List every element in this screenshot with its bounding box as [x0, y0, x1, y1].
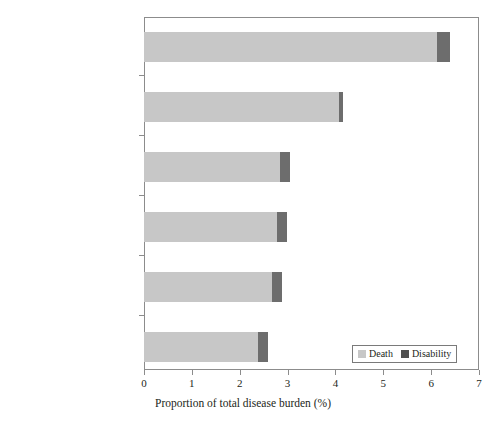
bar-segment-disability [258, 332, 268, 362]
x-axis-tick [144, 370, 145, 375]
bar-segment-death [144, 32, 437, 62]
x-axis-tick-label: 3 [276, 377, 300, 389]
legend: Death Disability [352, 345, 457, 363]
legend-swatch-disability-icon [401, 350, 409, 358]
bar-segment-disability [277, 212, 287, 242]
y-axis-tick [139, 195, 144, 196]
x-axis-tick-label: 4 [323, 377, 347, 389]
legend-label-death: Death [369, 348, 393, 359]
legend-label-disability: Disability [412, 348, 451, 359]
bar-segment-death [144, 152, 280, 182]
x-axis-tick-label: 1 [180, 377, 204, 389]
bar-segment-death [144, 272, 272, 302]
bar-segment-disability [437, 32, 450, 62]
y-axis-tick [139, 315, 144, 316]
bar-segment-disability [339, 92, 343, 122]
x-axis-tick-label: 2 [228, 377, 252, 389]
legend-item-disability: Disability [401, 348, 451, 359]
bar-segment-disability [280, 152, 290, 182]
bar-segment-death [144, 92, 339, 122]
x-axis-tick-label: 7 [467, 377, 486, 389]
bar-segment-disability [272, 272, 282, 302]
x-axis-tick [383, 370, 384, 375]
y-axis-tick [139, 75, 144, 76]
x-axis-tick-label: 5 [371, 377, 395, 389]
x-axis-tick [479, 370, 480, 375]
disease-burden-bar-chart: Ischaemic heart disease Lower respirator… [0, 0, 486, 431]
x-axis-tick-label: 6 [419, 377, 443, 389]
x-axis-tick [335, 370, 336, 375]
x-axis-tick-label: 0 [132, 377, 156, 389]
legend-item-death: Death [358, 348, 393, 359]
x-axis-tick [240, 370, 241, 375]
plot-area [144, 17, 479, 370]
legend-swatch-death-icon [358, 350, 366, 358]
y-axis-tick [139, 255, 144, 256]
x-axis-tick [192, 370, 193, 375]
x-axis-tick [431, 370, 432, 375]
x-axis-title: Proportion of total disease burden (%) [0, 397, 486, 409]
x-axis-tick [288, 370, 289, 375]
bar-segment-death [144, 332, 258, 362]
y-axis-tick [139, 135, 144, 136]
bar-segment-death [144, 212, 277, 242]
